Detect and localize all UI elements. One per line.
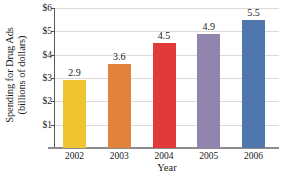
bar-series: 2.93.64.54.95.5: [55, 8, 279, 148]
y-axis-tick-label: $5: [32, 26, 52, 36]
x-axis-tick-label: 2006: [234, 151, 274, 161]
bar-value-label: 3.6: [113, 51, 126, 62]
x-axis-tick-label: 2005: [189, 151, 229, 161]
x-axis-tick-label: 2004: [144, 151, 184, 161]
y-axis-tick-label: $3: [32, 73, 52, 83]
bar-rect: [242, 20, 265, 148]
bar-rect: [153, 43, 176, 148]
bar: 4.5: [153, 43, 176, 148]
x-axis-tick-label: 2002: [54, 151, 94, 161]
y-axis-tick-labels: $1$2$3$4$5$6: [30, 0, 52, 150]
bar-rect: [63, 80, 86, 148]
bar: 4.9: [197, 34, 220, 148]
bar: 2.9: [63, 80, 86, 148]
y-axis-tick-label: $1: [32, 120, 52, 130]
y-axis-tick-label: $6: [32, 3, 52, 13]
y-axis-tick-label: $4: [32, 50, 52, 60]
bar-rect: [197, 34, 220, 148]
y-axis-tick-label: $2: [32, 96, 52, 106]
plot-area: 2.93.64.54.95.5: [55, 8, 279, 148]
bar-rect: [108, 64, 131, 148]
y-axis-title: Spending for Drug Ads (billions of dolla…: [0, 0, 32, 150]
bar: 3.6: [108, 64, 131, 148]
bar-value-label: 4.9: [203, 21, 216, 32]
bar: 5.5: [242, 20, 265, 148]
y-axis-title-line-2: (billions of dollars): [16, 27, 28, 123]
bar-chart: Spending for Drug Ads (billions of dolla…: [0, 0, 283, 176]
bar-value-label: 4.5: [158, 30, 171, 41]
bar-value-label: 2.9: [68, 67, 81, 78]
bar-value-label: 5.5: [247, 7, 260, 18]
x-axis-title: Year: [55, 162, 279, 173]
y-axis-title-line-1: Spending for Drug Ads: [4, 27, 16, 123]
x-axis-tick-label: 2003: [99, 151, 139, 161]
